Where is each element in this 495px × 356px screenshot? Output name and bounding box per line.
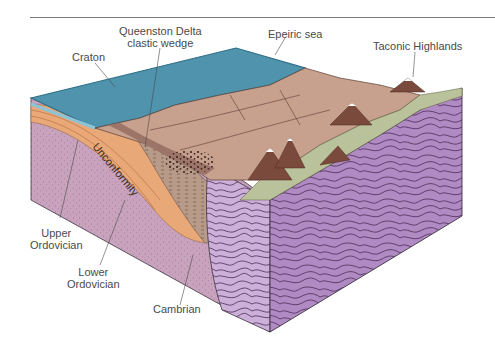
label-lower-line2: Ordovician — [67, 278, 120, 290]
label-upper-line2: Ordovician — [30, 239, 83, 251]
label-craton: Craton — [72, 51, 105, 63]
label-taconic-highlands: Taconic Highlands — [373, 40, 462, 52]
label-epeiric-sea: Epeiric sea — [268, 28, 322, 40]
label-queenston-line1: Queenston Delta — [119, 25, 202, 37]
conglomerate-blob — [165, 150, 215, 174]
label-upper-ordovician: Upper Ordovician — [30, 227, 83, 251]
label-cambrian: Cambrian — [153, 303, 201, 315]
label-queenston-delta: Queenston Delta clastic wedge — [119, 25, 202, 49]
label-lower-line1: Lower — [67, 266, 120, 278]
label-upper-line1: Upper — [30, 227, 83, 239]
geologic-block-diagram: Unconformity Queenston Delta clastic wed… — [0, 0, 495, 356]
label-lower-ordovician: Lower Ordovician — [67, 266, 120, 290]
label-queenston-line2: clastic wedge — [119, 37, 202, 49]
